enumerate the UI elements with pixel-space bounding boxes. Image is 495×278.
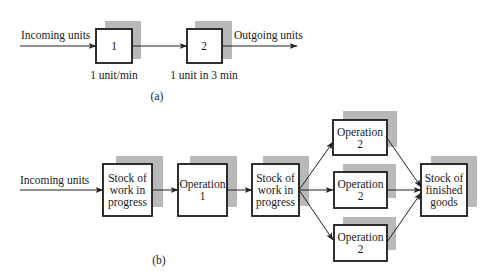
stock-wip-1-line-2: work in [110,184,146,196]
operation-2-mid: Operation 2 [334,164,396,208]
stock-wip-1-line-1: Stock of [108,172,147,184]
incoming-units-label-b: Incoming units [20,174,90,187]
station-2-id: 2 [201,40,207,52]
stock-finished-goods: Stock of finished goods [421,156,477,216]
operation-2-bot-line-2: 2 [358,243,364,255]
caption-a: (a) [151,90,164,103]
operation-1: Operation 1 [178,156,237,216]
arrow-wip2-to-op2-bot [299,190,333,240]
stock-wip-2-line-2: work in [258,184,294,196]
finished-goods-line-2: finished [425,184,462,196]
stock-wip-2-line-1: Stock of [256,172,295,184]
operation-2-bot: Operation 2 [334,217,396,261]
figure-a: Incoming units 1 1 unit/min 2 1 unit in … [20,21,303,103]
figure-b: Incoming units Stock of work in progress… [20,111,477,267]
stock-wip-2-line-3: progress [256,196,295,209]
outgoing-units-label: Outgoing units [234,29,303,42]
station-1: 1 1 unit/min [90,21,141,81]
stock-wip-1-line-3: progress [108,196,147,209]
operation-2-top: Operation 2 [333,111,397,155]
finished-goods-line-3: goods [430,196,458,209]
station-2-rate: 1 unit in 3 min [170,69,238,81]
operation-2-mid-line-2: 2 [358,190,364,202]
station-2: 2 1 unit in 3 min [170,21,238,81]
stock-wip-2: Stock of work in progress [252,156,309,216]
incoming-units-label-a: Incoming units [21,29,91,42]
station-1-rate: 1 unit/min [90,69,138,81]
caption-b: (b) [152,254,166,267]
stock-wip-1: Stock of work in progress [103,156,163,216]
production-flow-diagram: Incoming units 1 1 unit/min 2 1 unit in … [0,0,495,278]
operation-1-line-2: 1 [200,190,206,202]
operation-2-top-line-2: 2 [357,138,363,150]
finished-goods-line-1: Stock of [425,172,464,184]
station-1-id: 1 [111,40,117,52]
